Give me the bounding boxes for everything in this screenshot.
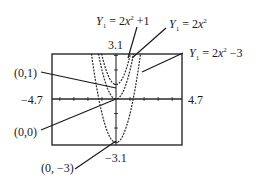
vertex-label-0-neg3: (0, −3) bbox=[41, 161, 74, 175]
ymin-label: −3.1 bbox=[105, 151, 127, 165]
xmax-label: 4.7 bbox=[188, 93, 203, 107]
parabola-figure: 3.1 −3.1 −4.7 4.7 (0,1) (0,0) (0, −3) Y1… bbox=[0, 0, 258, 181]
equation-label-zero: Y1 = 2x2 bbox=[169, 17, 207, 33]
equation-label-minus3: Y1 = 2x2 −3 bbox=[189, 46, 243, 62]
ymax-label: 3.1 bbox=[108, 38, 123, 52]
vertex-label-0-1: (0,1) bbox=[14, 66, 37, 80]
equation-label-plus1: Y1 = 2x2 +1 bbox=[96, 14, 150, 30]
vertex-label-0-0: (0,0) bbox=[14, 125, 37, 139]
xmin-label: −4.7 bbox=[21, 93, 43, 107]
